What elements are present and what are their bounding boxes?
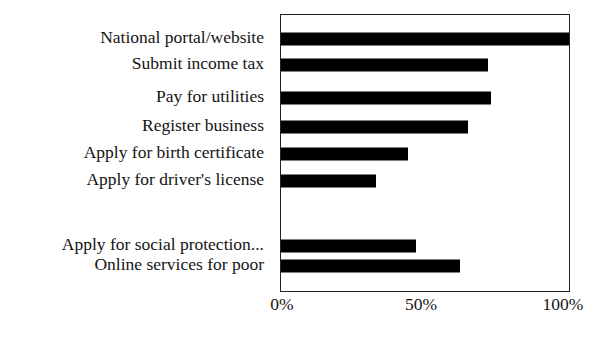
category-label-submit-income-tax: Submit income tax bbox=[132, 55, 264, 73]
category-label-online-services-for-poor: Online services for poor bbox=[94, 256, 264, 274]
category-label-apply-for-social-protection: Apply for social protection... bbox=[62, 236, 264, 254]
bar-pay-for-utilities bbox=[281, 92, 491, 105]
category-label-pay-for-utilities: Pay for utilities bbox=[156, 88, 264, 106]
bar-apply-for-birth-certificate bbox=[281, 148, 408, 161]
bar-national-portal-website bbox=[281, 33, 569, 46]
category-label-apply-for-birth-certificate: Apply for birth certificate bbox=[84, 144, 264, 162]
bar-submit-income-tax bbox=[281, 59, 488, 72]
x-axis-tick-labels: 0% 50% 100% bbox=[280, 296, 570, 326]
bar-apply-for-social-protection bbox=[281, 240, 416, 253]
xtick-label-50: 50% bbox=[405, 296, 437, 314]
bar-chart: National portal/website Submit income ta… bbox=[0, 0, 607, 340]
category-label-register-business: Register business bbox=[142, 117, 264, 135]
plot-area bbox=[280, 14, 570, 292]
category-axis-labels: National portal/website Submit income ta… bbox=[0, 0, 272, 292]
bars-container bbox=[281, 15, 569, 291]
xtick-label-0: 0% bbox=[270, 296, 293, 314]
bar-register-business bbox=[281, 121, 468, 134]
bar-online-services-for-poor bbox=[281, 260, 460, 273]
category-label-apply-for-drivers-license: Apply for driver's license bbox=[86, 171, 264, 189]
xtick-label-100: 100% bbox=[543, 296, 584, 314]
bar-apply-for-drivers-license bbox=[281, 175, 376, 188]
category-label-national-portal-website: National portal/website bbox=[100, 29, 264, 47]
